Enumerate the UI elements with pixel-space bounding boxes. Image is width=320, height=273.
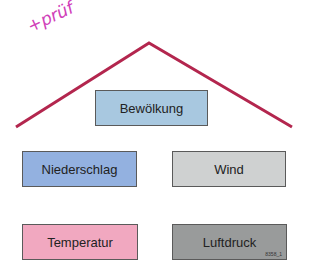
- box-niederschlag: Niederschlag: [22, 151, 137, 187]
- box-temperatur: Temperatur: [22, 224, 138, 260]
- box-luftdruck-label: Luftdruck: [203, 235, 256, 250]
- figure-code: 8358_1: [265, 251, 282, 257]
- box-wind: Wind: [172, 151, 286, 187]
- box-luftdruck: Luftdruck 8358_1: [172, 224, 287, 260]
- box-niederschlag-label: Niederschlag: [42, 162, 118, 177]
- box-temperatur-label: Temperatur: [47, 235, 113, 250]
- box-wind-label: Wind: [214, 162, 244, 177]
- box-bewolkung: Bewölkung: [95, 90, 208, 126]
- box-bewolkung-label: Bewölkung: [120, 101, 184, 116]
